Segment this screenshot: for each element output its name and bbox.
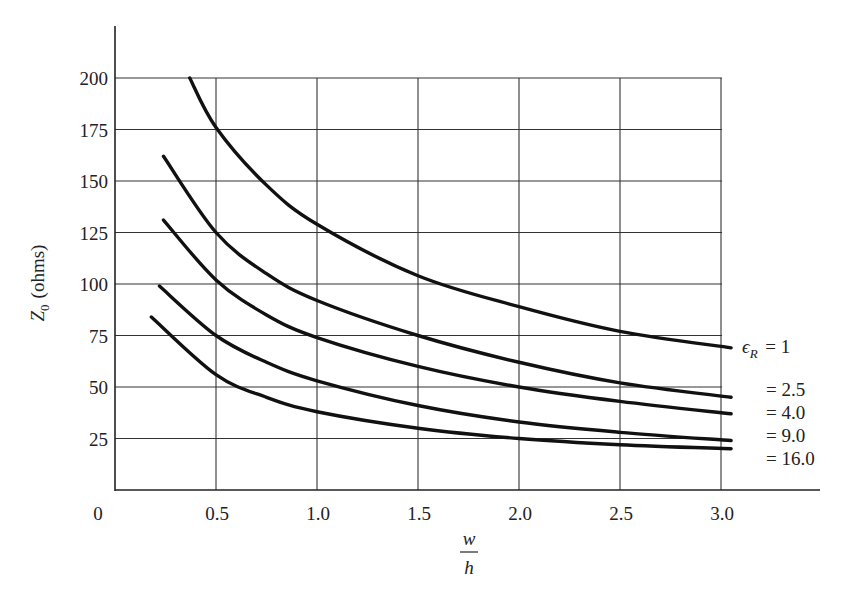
legend-label-series-4: = 16.0 xyxy=(766,448,815,469)
data-curves xyxy=(151,78,731,449)
curve-series-2 xyxy=(163,220,731,414)
x-axis-label-denominator: h xyxy=(464,557,474,578)
x-tick-label: 2.5 xyxy=(609,503,633,524)
legend-labels: ϵR = 1= 2.5= 4.0= 9.0= 16.0 xyxy=(742,336,815,469)
legend-label-series-3: = 9.0 xyxy=(766,425,805,446)
y-tick-label: 75 xyxy=(89,326,108,347)
x-tick-label: 0.5 xyxy=(205,503,229,524)
y-tick-label: 100 xyxy=(80,274,109,295)
x-tick-label: 1.0 xyxy=(306,503,330,524)
x-axis-label-numerator: w xyxy=(463,528,476,549)
y-tick-labels: 255075100125150175200 xyxy=(80,68,109,450)
x-axis-label: w h xyxy=(460,528,478,578)
axes xyxy=(115,26,820,491)
x-tick-label: 1.5 xyxy=(407,503,431,524)
y-tick-label: 50 xyxy=(89,377,108,398)
y-tick-label: 125 xyxy=(80,223,109,244)
legend-label-series-0: ϵR = 1 xyxy=(742,336,790,361)
curve-series-3 xyxy=(159,286,731,441)
y-tick-label: 150 xyxy=(80,171,109,192)
y-axis-label-sub: 0 xyxy=(37,304,52,311)
y-tick-label: 175 xyxy=(80,120,109,141)
curve-series-0 xyxy=(190,78,731,348)
y-tick-label: 25 xyxy=(89,429,108,450)
x-tick-labels: 00.51.01.52.02.53.0 xyxy=(93,503,734,524)
legend-label-series-1: = 2.5 xyxy=(766,379,805,400)
x-tick-label: 0 xyxy=(93,503,103,524)
y-axis-label: Z0(ohms) xyxy=(27,245,52,322)
chart-svg: 00.51.01.52.02.53.0 25507510012515017520… xyxy=(0,0,848,606)
y-axis-label-main: Z xyxy=(27,310,48,321)
y-tick-label: 200 xyxy=(80,68,109,89)
legend-label-series-2: = 4.0 xyxy=(766,402,805,423)
svg-text:Z0(ohms): Z0(ohms) xyxy=(27,245,52,322)
x-tick-label: 2.0 xyxy=(508,503,532,524)
y-axis-label-unit: (ohms) xyxy=(27,245,49,299)
x-tick-label: 3.0 xyxy=(710,503,734,524)
curve-series-1 xyxy=(163,156,731,397)
